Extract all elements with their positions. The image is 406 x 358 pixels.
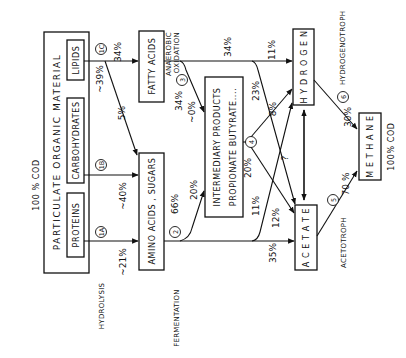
flow-lipids-to-fatty-pct: 34% [113,42,123,62]
particulate-organic-material-box: PARTICULATE ORGANIC MATERIAL PROTEINS CA… [44,32,89,273]
step-2-label: 2 [172,230,180,234]
step-1b-label: 1B [98,161,106,170]
particulate-title: PARTICULATE ORGANIC MATERIAL [52,54,62,251]
carbohydrates-label: CARBOHYDRATES [72,101,81,179]
flow-amino-to-intermediary-pct: 20% [189,180,199,200]
flow-carbs-pct: ~40% [118,182,128,210]
step-5-label: 5 [330,198,338,202]
step-4-label: 4 [248,140,256,144]
flow-hydrogen-to-methane-pct: 30% [343,107,353,127]
flow-intermediary-total-pct: 20% [243,158,253,178]
anaerobic-digestion-cod-flow-diagram: 100 % COD PARTICULATE ORGANIC MATERIAL P… [0,0,406,358]
flow-lipids-total-pct: ~39% [95,65,105,93]
flow-fatty-to-acetate-pct: 23% [251,81,261,101]
process-hydrolysis-label: HYDROLYSIS [98,283,106,330]
amino-acids-sugars-label: AMINO ACIDS , SUGARS [148,158,157,265]
hydrogen-label: H Y D R O G E N [300,31,309,104]
flow-fatty-total-pct: 34% [174,91,184,111]
fatty-acids-label: FATTY ACIDS [148,38,157,95]
acetate-label: A C E T A T E [302,208,311,267]
intermediary-line1: INTERMEDIARY PRODUCTS [213,87,222,206]
flow-proteins-pct: ~21% [118,248,128,276]
flow-amino-total-pct: 66% [170,194,180,214]
process-acetotroph-label: ACETOTROPH [340,217,348,268]
process-fermentation-label: FERMENTATION [173,289,181,347]
flow-fatty-to-hydrogen-pct: 11% [267,40,277,60]
step-3-label: 3 [179,78,187,82]
process-hydrogenotroph-label: HYDROGENOTROPH [339,11,347,85]
flow-fatty-top-pct: 34% [223,37,233,57]
flow-fatty-to-intermediary-pct: ~0% [187,101,197,123]
process-anaerobic-label-1: ANAEROBIC [165,32,173,76]
hydrogen-acetate-unknown: ? [280,155,290,160]
step-1c-label: 1C [98,44,106,53]
flow-lipids-to-amino-pct: 5% [117,105,127,120]
lipids-label: LIPIDS [72,46,81,75]
flow-intermediary-to-hydrogen-pct: 8% [268,101,278,116]
flow-amino-to-hydrogen-pct: 11% [251,196,261,216]
flow-intermediary-to-acetate-pct: 12% [271,208,281,228]
step-6-label: 6 [340,95,348,99]
flow-acetate-to-methane-pct: 70 % [341,172,351,195]
flow-amino-to-acetate-pct: 35% [268,243,278,263]
methane-cod-label: 100% COD [387,122,396,170]
methane-label: M E T H A N E [366,115,375,177]
proteins-label: PROTEINS [72,203,81,248]
intermediary-line2: PROPIONATE BUTYRATE.... [229,88,238,207]
process-anaerobic-label-2: OXIDATION [173,32,181,73]
title-total-cod: 100 % COD [32,159,41,210]
step-1a-label: 1A [98,227,106,236]
